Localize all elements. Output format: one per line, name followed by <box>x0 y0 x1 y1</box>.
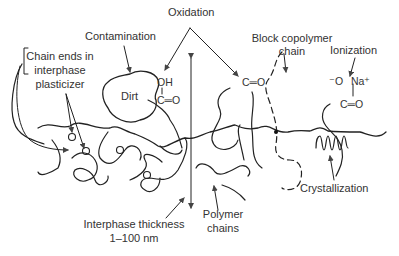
interphase-thickness-label-2: 1–100 nm <box>64 232 204 245</box>
chain-ends-label-1: Chain ends in <box>20 50 100 63</box>
contamination-arrow <box>124 46 130 72</box>
block-copolymer-chain <box>266 52 302 190</box>
polymer-chain <box>72 153 108 185</box>
polymer-chain <box>222 185 245 200</box>
ionized-oxygen: ⁻O <box>329 75 343 87</box>
hydroxyl-group: OH <box>157 76 173 88</box>
polymer-chain <box>212 88 238 149</box>
polymer-chain <box>238 125 244 160</box>
junction-point <box>274 130 278 134</box>
oxidation-label: Oxidation <box>168 6 214 19</box>
ionization-arrow <box>350 58 355 76</box>
interphase-label-arrow <box>166 198 184 218</box>
crystallization-label: Crystallization <box>300 182 368 195</box>
chain-end-circle <box>117 147 124 154</box>
dirt-label: Dirt <box>121 90 138 103</box>
sodium-ion: Na⁺ <box>351 75 370 87</box>
ionization-label: Ionization <box>330 44 377 57</box>
carbonyl-group-left: C═O <box>157 94 180 106</box>
polymer-chains-arrow <box>214 186 218 210</box>
oxidation-arrow <box>165 28 190 70</box>
chain-ends-arrow <box>66 94 84 148</box>
chain-ends-label-3: plasticizer <box>20 78 100 91</box>
polymer-chains-label-1: Polymer <box>198 208 248 221</box>
polymer-chain <box>141 138 187 192</box>
crystallization-fold <box>316 136 348 150</box>
chain-ends-label-2: interphase <box>20 64 100 77</box>
crystallization-arrow <box>330 156 334 180</box>
chain-end-circle <box>69 134 76 141</box>
interphase-diagram: Oxidation Contamination Block copolymer … <box>0 0 399 256</box>
oxidation-arrow <box>190 28 238 76</box>
polymer-chain <box>130 154 162 180</box>
carbonyl-group-right: C═O <box>340 98 363 110</box>
carbonyl-group-mid: C═O <box>242 76 265 88</box>
contamination-label: Contamination <box>85 30 156 43</box>
interphase-thickness-label-1: Interphase thickness <box>64 218 204 231</box>
polymer-chain <box>196 164 250 176</box>
polymer-chain <box>99 132 141 163</box>
chain-end-circle <box>144 172 151 179</box>
polymer-chain <box>252 92 262 168</box>
polymer-chains-label-2: chains <box>198 222 248 235</box>
polymer-chain <box>323 104 343 176</box>
polymer-chain <box>38 140 60 175</box>
